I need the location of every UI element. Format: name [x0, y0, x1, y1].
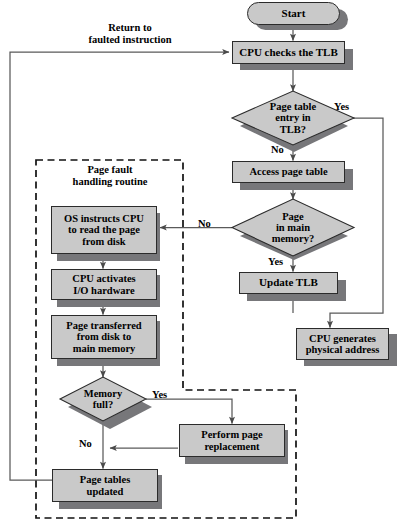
edge-label-tlb-no: No [271, 144, 284, 155]
edge-label-tlb-yes: Yes [334, 101, 349, 112]
shape-memory-decision [232, 199, 354, 256]
node-perform-page-replacement-label: Perform page replacement [180, 429, 284, 452]
flowchart-canvas: Start CPU checks the TLB Page table entr… [0, 0, 397, 531]
node-access-page-table[interactable]: Access page table [232, 161, 345, 183]
group-title-page-fault-handling-routine: Page fault handling routine [50, 164, 170, 188]
node-page-tables-updated[interactable]: Page tables updated [52, 469, 158, 502]
node-cpu-checks-tlb-label: CPU checks the TLB [233, 47, 344, 59]
node-access-page-table-label: Access page table [233, 166, 344, 177]
node-cpu-activates-io-label: CPU activates I/O hardware [52, 273, 156, 296]
node-perform-page-replacement[interactable]: Perform page replacement [179, 424, 285, 457]
edge-label-full-no: No [79, 438, 92, 449]
node-cpu-generates-physical-address-label: CPU generates physical address [297, 333, 388, 356]
edge-label-memory-no: No [198, 218, 211, 229]
node-update-tlb-label: Update TLB [240, 277, 337, 289]
node-update-tlb[interactable]: Update TLB [239, 272, 338, 294]
edge-label-full-yes: Yes [152, 389, 167, 400]
node-cpu-activates-io[interactable]: CPU activates I/O hardware [51, 269, 157, 300]
node-page-transferred-label: Page transferred from disk to main memor… [52, 320, 156, 354]
node-start-label: Start [248, 8, 339, 20]
shape-tlb-decision [232, 91, 354, 145]
node-cpu-generates-physical-address[interactable]: CPU generates physical address [296, 328, 389, 360]
node-page-transferred[interactable]: Page transferred from disk to main memor… [51, 315, 157, 359]
node-page-tables-updated-label: Page tables updated [53, 474, 157, 497]
node-start[interactable]: Start [247, 2, 340, 25]
annotation-return-to-faulted-instruction: Return to faulted instruction [50, 22, 210, 46]
node-os-instructs-cpu[interactable]: OS instructs CPU to read the page from d… [51, 206, 157, 254]
node-os-instructs-cpu-label: OS instructs CPU to read the page from d… [52, 213, 156, 247]
edge-label-memory-yes: Yes [268, 256, 283, 267]
node-cpu-checks-tlb[interactable]: CPU checks the TLB [232, 41, 345, 64]
